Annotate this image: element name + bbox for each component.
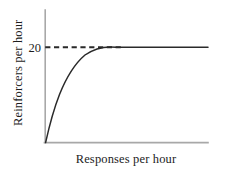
y-axis-title: Reinforcers per hour	[11, 19, 25, 126]
y-tick-label-20: 20	[29, 41, 42, 55]
x-axis-title: Responses per hour	[76, 152, 177, 166]
chart-canvas: 20 Reinforcers per hour Responses per ho…	[0, 0, 228, 172]
chart-figure: 20 Reinforcers per hour Responses per ho…	[0, 0, 228, 172]
reinforcement-rate-curve	[46, 47, 208, 143]
